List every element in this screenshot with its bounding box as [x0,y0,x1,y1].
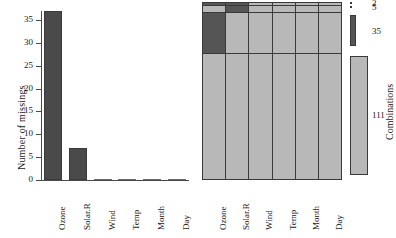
matrix-cell [203,13,226,54]
legend-swatch [350,15,356,46]
matrix-cell [226,6,249,13]
legend-count-label: 35 [372,26,381,36]
combination-matrix-panel: Combinations 2535111 OzoneSolar.RWindTem… [196,0,396,238]
bar-chart-x-tick-label: Day [181,215,191,230]
matrix-x-tick-label: Day [334,215,344,230]
bar-chart-x-tick-label: Solar.R [82,203,92,230]
bar-chart-bar [168,179,186,180]
bar-chart-panel: Number of missings 05101520253035 OzoneS… [0,0,196,238]
matrix-x-tick-label: Wind [264,210,274,230]
bar-chart-bar [94,179,112,180]
matrix-cell [319,54,341,180]
bar-chart-y-tick-label: 30 [24,37,36,47]
matrix-cell [273,6,296,13]
combination-matrix-grid [202,2,342,180]
bar-chart-x-axis-line [41,180,189,181]
missing-data-figure: Number of missings 05101520253035 OzoneS… [0,0,396,238]
bar-chart-bar [118,179,136,180]
matrix-x-tick-label: Ozone [218,207,228,231]
legend-swatch [350,56,368,175]
matrix-x-tick-label: Temp [288,210,298,230]
matrix-cell [226,54,249,180]
bar-chart-x-tick-label: Month [156,206,166,230]
bar-chart-bar [143,179,161,180]
matrix-cell [226,13,249,54]
bar-chart-y-tick-label: 20 [24,83,36,93]
matrix-cell [203,54,226,180]
bar-chart-y-tick-label: 25 [24,60,36,70]
legend-row: 35 [346,10,394,51]
matrix-cell [296,54,319,180]
matrix-cell [319,13,341,54]
legend-swatch [350,6,352,8]
matrix-x-tick-label: Solar.R [241,203,251,230]
matrix-cell [203,6,226,13]
matrix-cell [273,13,296,54]
matrix-cell [296,13,319,54]
bar-chart-y-tick: 15 [36,111,41,112]
bar-chart-y-tick: 30 [36,43,41,44]
bar-chart-bar [69,148,87,180]
bar-chart-y-tick-label: 15 [24,105,36,115]
matrix-row [203,6,341,13]
bar-chart-y-tick-label: 10 [24,128,36,138]
bar-chart-bar [44,11,62,180]
matrix-count-legend: 2535111 [346,2,394,180]
matrix-cell [249,13,272,54]
bar-chart-y-tick: 20 [36,89,41,90]
matrix-row [203,54,341,180]
bar-chart-y-tick: 5 [36,157,41,158]
matrix-cell [249,54,272,180]
matrix-row [203,13,341,54]
bar-chart-y-tick-label: 0 [29,174,37,184]
matrix-cell [249,6,272,13]
bar-chart-y-tick-label: 35 [24,14,36,24]
matrix-x-tick-label: Month [311,206,321,230]
bar-chart-y-axis-spine [41,11,42,181]
matrix-cell [296,6,319,13]
bar-chart-x-tick-label: Wind [107,210,117,230]
bar-chart-y-tick: 0 [36,180,41,181]
legend-count-label: 111 [372,110,385,120]
bar-chart-y-tick: 10 [36,134,41,135]
bar-chart-y-tick-label: 5 [29,151,37,161]
bar-chart-x-tick-label: Ozone [57,207,67,231]
matrix-cell [319,6,341,13]
bar-chart-x-tick-label: Temp [131,210,141,230]
legend-row: 111 [346,51,394,180]
bar-chart-y-tick: 25 [36,66,41,67]
matrix-cell [273,54,296,180]
bar-chart-y-tick: 35 [36,20,41,21]
